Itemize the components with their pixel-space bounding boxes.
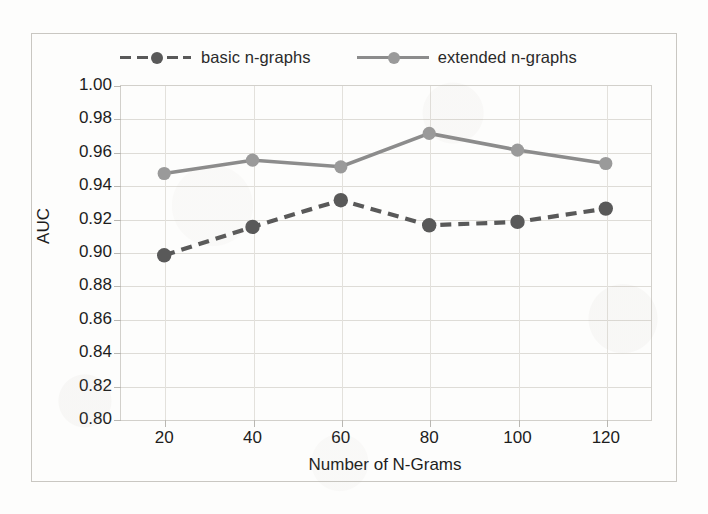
data-point <box>245 220 259 234</box>
x-tick-label: 60 <box>331 428 350 448</box>
y-tick-label: 0.82 <box>79 376 112 396</box>
x-tick-label: 80 <box>420 428 439 448</box>
y-tick-label: 0.90 <box>79 242 112 262</box>
data-point <box>599 201 613 215</box>
y-axis-tick-labels: 1.000.980.960.940.920.900.880.860.840.82… <box>48 85 112 419</box>
data-point <box>422 218 436 232</box>
legend-marker-solid-icon <box>357 50 431 64</box>
y-axis-label: AUC <box>34 176 54 276</box>
series-line-2 <box>164 133 606 173</box>
y-tick-label: 0.86 <box>79 309 112 329</box>
y-tick-label: 0.92 <box>79 209 112 229</box>
y-tick-label: 0.80 <box>79 409 112 429</box>
data-point <box>334 193 348 207</box>
y-tick-label: 0.98 <box>79 108 112 128</box>
y-tick-label: 0.94 <box>79 175 112 195</box>
y-tick-label: 0.84 <box>79 342 112 362</box>
chart-legend: basic n-graphs extended n-graphs <box>120 42 640 72</box>
x-tick-label: 40 <box>243 428 262 448</box>
series-line-1 <box>164 200 606 255</box>
x-tick-label: 120 <box>592 428 620 448</box>
chart-series-layer <box>120 85 652 421</box>
x-tick-label: 100 <box>503 428 531 448</box>
data-point <box>158 167 171 180</box>
y-tick-label: 1.00 <box>79 75 112 95</box>
data-point <box>157 248 171 262</box>
data-point <box>599 157 612 170</box>
legend-entry-extended: extended n-graphs <box>357 48 577 67</box>
x-tick-label: 20 <box>155 428 174 448</box>
chart-page: basic n-graphs extended n-graphs 1.000.9… <box>0 0 708 514</box>
y-tick-label: 0.88 <box>79 275 112 295</box>
data-point <box>511 144 524 157</box>
legend-label-basic: basic n-graphs <box>201 48 311 67</box>
y-tick-label: 0.96 <box>79 142 112 162</box>
legend-entry-basic: basic n-graphs <box>120 48 311 67</box>
data-point <box>246 154 259 167</box>
data-point <box>423 127 436 140</box>
legend-label-extended: extended n-graphs <box>438 48 577 67</box>
x-axis-label: Number of N-Grams <box>120 455 650 475</box>
data-point <box>510 215 524 229</box>
data-point <box>334 160 347 173</box>
x-axis-tick-labels: 20406080100120 <box>120 420 650 450</box>
legend-marker-dashed-icon <box>120 50 194 64</box>
